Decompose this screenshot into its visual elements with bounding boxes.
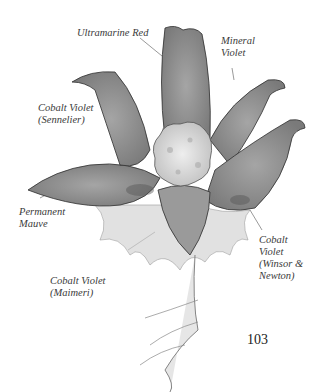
label-cobalt-violet-winsor-newton: Cobalt Violet (Winsor & Newton) [259,234,303,282]
label-line: Cobalt Violet [38,102,94,114]
label-line: Ultramarine Red [77,27,148,39]
label-cobalt-violet-maimeri: Cobalt Violet (Maimeri) [50,275,106,299]
label-line: Mineral [221,35,255,47]
label-line: Cobalt [259,234,303,246]
page-number: 103 [247,332,268,348]
label-permanent-mauve: Permanent Mauve [19,206,65,230]
label-line: Violet [221,47,255,59]
label-line: (Sennelier) [38,114,94,126]
label-cobalt-violet-sennelier: Cobalt Violet (Sennelier) [38,102,94,126]
label-line: Violet [259,246,303,258]
label-line: Permanent [19,206,65,218]
label-line: (Winsor & [259,258,303,270]
flower-illustration [0,0,325,392]
label-line: Cobalt Violet [50,275,106,287]
label-mineral-violet: Mineral Violet [221,35,255,59]
label-line: (Maimeri) [50,287,106,299]
label-line: Newton) [259,270,303,282]
flower-center [153,122,211,186]
label-ultramarine-red: Ultramarine Red [77,27,148,39]
label-line: Mauve [19,218,65,230]
